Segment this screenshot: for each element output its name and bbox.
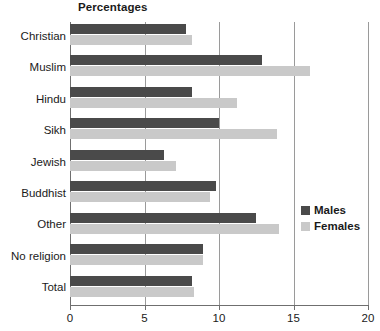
bar-males [70, 213, 256, 223]
bar-group [70, 55, 368, 86]
category-label: Other [0, 218, 66, 230]
bar-females [70, 255, 203, 265]
bar-males [70, 244, 203, 254]
percentages-bar-chart: Percentages 05101520 ChristianMuslimHind… [0, 0, 380, 331]
bar-females [70, 224, 279, 234]
chart-legend: MalesFemales [301, 203, 360, 235]
legend-label: Females [314, 220, 360, 232]
x-axis-tick-label: 20 [348, 312, 380, 324]
x-axis-tick-label: 10 [199, 312, 239, 324]
category-label: Total [0, 281, 66, 293]
bar-females [70, 66, 310, 76]
bar-females [70, 192, 210, 202]
category-label: Hindu [0, 93, 66, 105]
category-label: Jewish [0, 156, 66, 168]
bar-males [70, 24, 186, 34]
x-axis-tick-label: 5 [125, 312, 165, 324]
category-label: Muslim [0, 61, 66, 73]
bar-females [70, 161, 176, 171]
x-axis-tick [70, 305, 71, 310]
bar-males [70, 276, 192, 286]
bar-females [70, 129, 277, 139]
x-axis-tick [368, 305, 369, 310]
bar-group [70, 24, 368, 55]
legend-swatch-icon [301, 206, 310, 215]
bar-group [70, 244, 368, 275]
legend-item: Females [301, 219, 360, 233]
category-label: Buddhist [0, 187, 66, 199]
bar-group [70, 276, 368, 307]
chart-title: Percentages [78, 1, 148, 13]
x-axis-tick-label: 15 [274, 312, 314, 324]
x-axis-tick [294, 305, 295, 310]
legend-swatch-icon [301, 222, 310, 231]
legend-item: Males [301, 203, 360, 217]
x-axis-tick-label: 0 [50, 312, 90, 324]
plot-area [70, 22, 368, 305]
category-label: Christian [0, 30, 66, 42]
x-axis-tick [145, 305, 146, 310]
bar-males [70, 150, 164, 160]
gridline-20 [368, 22, 369, 305]
bar-group [70, 118, 368, 149]
x-axis-tick [219, 305, 220, 310]
bar-males [70, 118, 219, 128]
bar-group [70, 150, 368, 181]
category-label: No religion [0, 250, 66, 262]
bar-males [70, 181, 216, 191]
bar-females [70, 35, 192, 45]
bar-females [70, 98, 237, 108]
bar-group [70, 87, 368, 118]
bar-males [70, 87, 192, 97]
bar-females [70, 287, 194, 297]
legend-label: Males [314, 204, 346, 216]
bar-males [70, 55, 262, 65]
category-label: Sikh [0, 124, 66, 136]
